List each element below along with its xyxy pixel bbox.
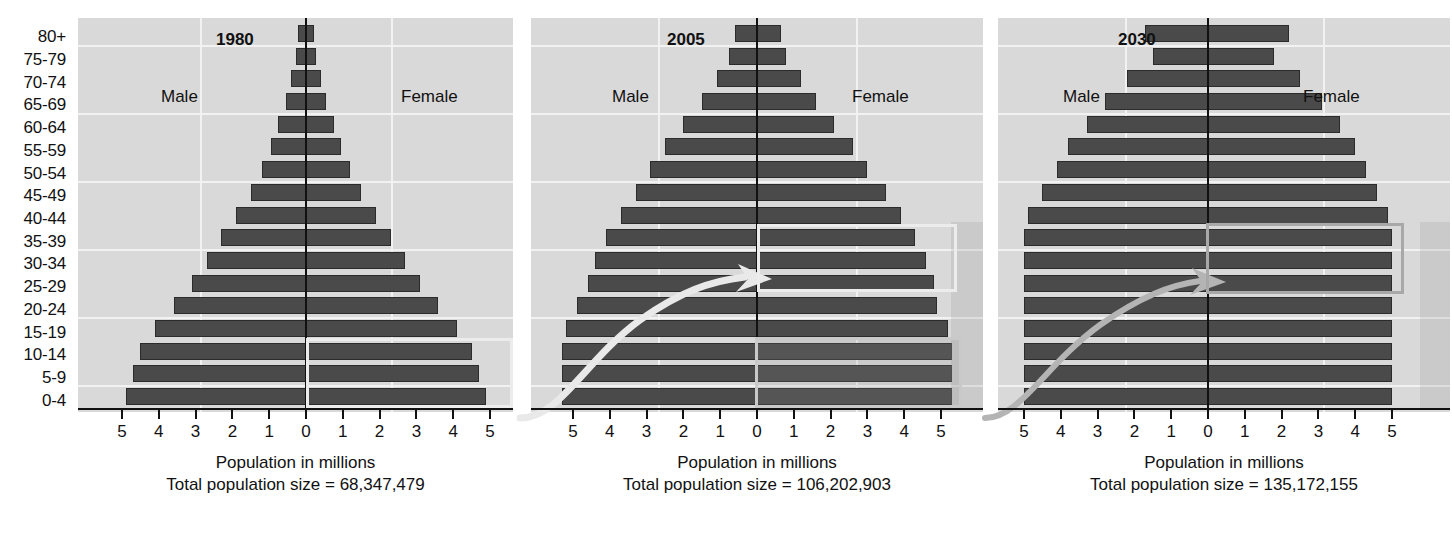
female-label: Female bbox=[401, 87, 458, 107]
age-label-70-74: 70-74 bbox=[24, 74, 66, 91]
bar-female-20-24 bbox=[757, 297, 937, 314]
x-tick bbox=[1170, 410, 1172, 419]
bar-male-35-39 bbox=[1024, 229, 1208, 246]
highlight-2030-adult-cohort bbox=[1206, 223, 1404, 294]
gridline bbox=[78, 317, 513, 319]
bar-female-70-74 bbox=[306, 70, 321, 87]
gridline bbox=[78, 113, 513, 115]
population-pyramid-figure: 80+75-7970-7465-6960-6455-5950-5445-4940… bbox=[0, 0, 1452, 547]
bar-male-45-49 bbox=[251, 184, 306, 201]
x-tick bbox=[756, 410, 758, 419]
x-tick bbox=[1317, 410, 1319, 419]
x-tick bbox=[158, 410, 160, 419]
bar-female-25-29 bbox=[306, 275, 420, 292]
x-tick bbox=[1354, 410, 1356, 419]
highlight-2005-young-cohort bbox=[755, 337, 962, 408]
x-tick bbox=[1023, 410, 1025, 419]
bar-male-5-9 bbox=[133, 365, 306, 382]
bar-male-75-79 bbox=[1153, 48, 1208, 65]
bar-male-5-9 bbox=[1024, 365, 1208, 382]
x-tick bbox=[342, 410, 344, 419]
x-tick-label: 2 bbox=[1123, 422, 1145, 442]
bar-male-80+ bbox=[735, 25, 757, 42]
x-tick bbox=[195, 410, 197, 419]
x-tick bbox=[646, 410, 648, 419]
x-tick bbox=[489, 410, 491, 419]
x-tick-label: 5 bbox=[479, 422, 501, 442]
age-label-15-19: 15-19 bbox=[24, 324, 66, 341]
x-axis-line bbox=[78, 408, 513, 410]
bar-male-20-24 bbox=[174, 297, 306, 314]
total-population-caption: Total population size = 106,202,903 bbox=[531, 474, 983, 495]
bar-male-15-19 bbox=[1024, 320, 1208, 337]
x-tick bbox=[452, 410, 454, 419]
bar-male-50-54 bbox=[1057, 161, 1208, 178]
age-label-20-24: 20-24 bbox=[24, 301, 66, 318]
bar-male-25-29 bbox=[192, 275, 306, 292]
bar-female-10-14 bbox=[1208, 343, 1392, 360]
panel-title-1980: 1980 bbox=[216, 30, 254, 50]
bar-female-0-4 bbox=[1208, 388, 1392, 405]
bar-female-60-64 bbox=[306, 116, 334, 133]
bar-male-10-14 bbox=[562, 343, 757, 360]
x-tick bbox=[572, 410, 574, 419]
bar-female-75-79 bbox=[757, 48, 786, 65]
bar-female-70-74 bbox=[1208, 70, 1300, 87]
x-tick-label: 0 bbox=[295, 422, 317, 442]
x-tick bbox=[830, 410, 832, 419]
gridline bbox=[998, 181, 1450, 183]
x-tick-label: 5 bbox=[1013, 422, 1035, 442]
x-tick-label: 2 bbox=[221, 422, 243, 442]
x-tick bbox=[305, 410, 307, 419]
male-label: Male bbox=[612, 87, 649, 107]
bar-female-60-64 bbox=[757, 116, 834, 133]
bar-male-55-59 bbox=[665, 138, 757, 155]
bar-male-60-64 bbox=[278, 116, 306, 133]
bar-male-70-74 bbox=[1127, 70, 1208, 87]
x-tick bbox=[1097, 410, 1099, 419]
bar-female-80+ bbox=[757, 25, 781, 42]
x-tick-label: 5 bbox=[1381, 422, 1403, 442]
panel-edge-shade-2030 bbox=[1420, 222, 1450, 408]
bar-male-60-64 bbox=[1087, 116, 1208, 133]
plot-area-2030: 2030MaleFemale bbox=[998, 18, 1450, 412]
x-tick bbox=[415, 410, 417, 419]
bar-female-45-49 bbox=[757, 184, 886, 201]
x-tick-label: 4 bbox=[1344, 422, 1366, 442]
female-label: Female bbox=[852, 87, 909, 107]
bar-male-25-29 bbox=[588, 275, 757, 292]
bar-male-30-34 bbox=[207, 252, 306, 269]
bar-female-20-24 bbox=[306, 297, 438, 314]
x-tick bbox=[379, 410, 381, 419]
gridline bbox=[998, 113, 1450, 115]
total-population-caption: Total population size = 68,347,479 bbox=[78, 474, 513, 495]
age-label-45-49: 45-49 bbox=[24, 187, 66, 204]
bar-male-65-69 bbox=[1105, 93, 1208, 110]
x-tick-label: 2 bbox=[1271, 422, 1293, 442]
x-tick-label: 3 bbox=[405, 422, 427, 442]
x-axis-line bbox=[998, 408, 1450, 410]
x-tick-label: 4 bbox=[442, 422, 464, 442]
x-tick bbox=[1060, 410, 1062, 419]
x-tick-label: 5 bbox=[111, 422, 133, 442]
age-label-40-44: 40-44 bbox=[24, 210, 66, 227]
x-tick bbox=[121, 410, 123, 419]
bar-female-80+ bbox=[306, 25, 314, 42]
zero-axis bbox=[1207, 18, 1209, 408]
bar-female-55-59 bbox=[306, 138, 341, 155]
x-tick bbox=[268, 410, 270, 419]
bar-male-25-29 bbox=[1024, 275, 1208, 292]
x-tick-label: 1 bbox=[709, 422, 731, 442]
bar-female-40-44 bbox=[1208, 207, 1388, 224]
age-label-80plus: 80+ bbox=[38, 28, 66, 45]
age-label-5-9: 5-9 bbox=[42, 369, 66, 386]
x-tick bbox=[682, 410, 684, 419]
bar-male-30-34 bbox=[595, 252, 757, 269]
x-tick-label: 0 bbox=[1197, 422, 1219, 442]
gridline bbox=[78, 249, 513, 251]
bar-female-65-69 bbox=[757, 93, 816, 110]
male-label: Male bbox=[1063, 87, 1100, 107]
bar-female-50-54 bbox=[306, 161, 350, 178]
x-tick-label: 5 bbox=[930, 422, 952, 442]
highlight-1980-young-cohort bbox=[306, 338, 513, 408]
